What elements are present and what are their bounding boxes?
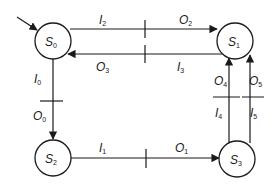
state-s3: S3 [219,141,255,177]
svg-text:I4: I4 [215,106,222,120]
transition-s0-s1: I2 O2 [70,13,217,38]
svg-text:O1: O1 [175,141,188,155]
svg-text:I1: I1 [99,141,106,155]
state-diagram: I2 O2 O3 I3 I0 O0 I1 O1 O4 I4 O5 I5 S0 [0,0,279,185]
transition-s1-s0: O3 I3 [68,45,222,74]
svg-text:I0: I0 [34,72,41,86]
initial-state-arrow [17,17,37,30]
state-s2: S2 [35,140,71,176]
svg-text:O0: O0 [33,109,46,123]
transition-s2-s3: I1 O1 [71,141,219,168]
svg-text:O5: O5 [249,74,262,88]
state-s0: S0 [35,23,71,59]
transition-s0-s2: I0 O0 [33,59,63,139]
transition-s3-s1-a: O4 I4 [214,58,229,143]
svg-text:O2: O2 [179,13,192,27]
svg-text:O3: O3 [96,60,109,74]
transition-s3-s1-b: O5 I5 [249,55,262,143]
svg-text:I5: I5 [250,106,257,120]
state-s1: S1 [217,23,253,59]
svg-text:I3: I3 [177,60,184,74]
svg-text:I2: I2 [99,13,106,27]
svg-text:O4: O4 [214,74,227,88]
